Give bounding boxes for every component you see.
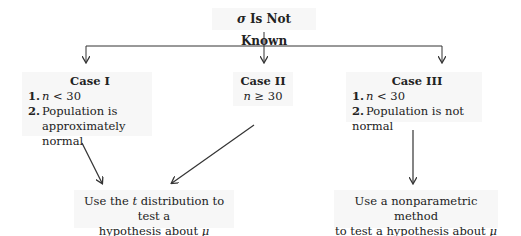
case-3-node: Case III 1.n < 30 2.Population is not no… (346, 72, 482, 122)
case-2-title: Case II (233, 74, 293, 89)
case-1-node: Case I 1.n < 30 2.Population is approxim… (22, 72, 152, 136)
case-3-title: Case III (352, 74, 482, 89)
case-2-node: Case II n ≥ 30 (233, 72, 293, 106)
root-node: σ Is Not Known (212, 8, 316, 30)
outcome-nonparametric: Use a nonparametric method to test a hyp… (334, 190, 498, 228)
case-1-title: Case I (28, 74, 152, 89)
outcome-t-distribution: Use the t distribution to test a hypothe… (74, 190, 234, 228)
root-label: Is Not Known (241, 12, 291, 48)
sigma-symbol: σ (237, 12, 246, 26)
